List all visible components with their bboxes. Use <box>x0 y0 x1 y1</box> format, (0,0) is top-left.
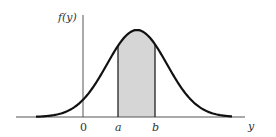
x-axis-label: y <box>247 120 255 133</box>
a-tick-label: a <box>115 121 122 134</box>
origin-tick-label: 0 <box>80 121 87 134</box>
shaded-area-a-to-b <box>118 30 155 117</box>
b-tick-label: b <box>152 121 159 134</box>
density-chart: f(y) y 0 a b <box>0 0 276 137</box>
y-axis-label: f(y) <box>57 11 77 24</box>
